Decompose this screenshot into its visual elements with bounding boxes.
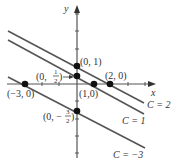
svg-text:1: 1 <box>54 68 58 76</box>
level-curves-diagram: y x (0, 1) (0, 1 2 ) (1,0) (2, 0) (−3, 0… <box>0 0 171 162</box>
label-line-c-neg3: C = −3 <box>113 149 143 160</box>
point-0-neg3half <box>74 108 81 115</box>
label-point-0-neg3half: (0, − 3 2 ) <box>43 108 74 125</box>
x-axis-label: x <box>150 87 156 98</box>
point-1-0 <box>91 81 98 88</box>
y-axis-arrow-icon <box>74 5 80 13</box>
label-line-c-1: C = 1 <box>122 115 145 126</box>
svg-text:2: 2 <box>54 77 58 85</box>
svg-text:(0,: (0, <box>36 71 47 83</box>
label-point-2-0: (2, 0) <box>105 70 127 82</box>
label-point-neg3-0: (−3, 0) <box>7 88 34 100</box>
label-point-0-1: (0, 1) <box>80 56 102 68</box>
y-axis-label: y <box>63 3 69 14</box>
label-point-1-0: (1,0) <box>79 88 98 100</box>
svg-text:): ) <box>71 111 74 123</box>
point-0-half <box>74 73 81 80</box>
point-neg3-0 <box>22 81 29 88</box>
label-line-c-2: C = 2 <box>147 99 170 110</box>
svg-text:): ) <box>59 71 62 83</box>
point-2-0 <box>107 81 114 88</box>
svg-text:(0, −: (0, − <box>43 111 62 123</box>
svg-text:3: 3 <box>66 108 70 116</box>
svg-text:2: 2 <box>66 117 70 125</box>
